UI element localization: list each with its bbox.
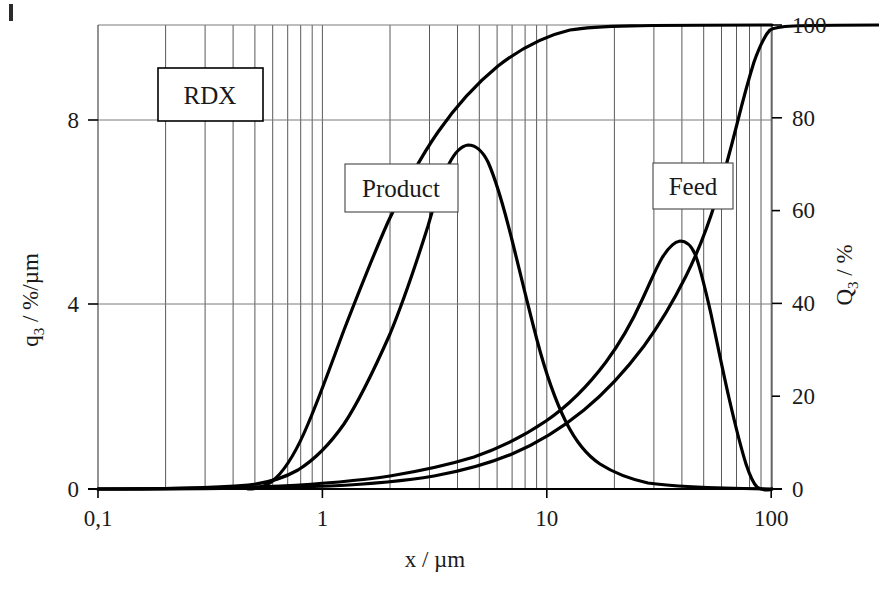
left-axis-title: q3 / %/µm: [18, 253, 47, 347]
left-axis-tick-labels: 0 4 8: [68, 108, 80, 502]
right-tick-60: 60: [792, 198, 815, 223]
left-axis-title-sub: 3: [31, 328, 47, 336]
x-tick-1: 1: [317, 506, 329, 531]
right-axis-tick-labels: 0 20 40 60 80 100: [792, 13, 827, 502]
right-tick-0: 0: [792, 477, 804, 502]
product-label: Product: [362, 175, 440, 202]
curve-feed-density: [98, 241, 772, 490]
right-tick-100: 100: [792, 13, 827, 38]
feed-label: Feed: [669, 173, 718, 200]
right-axis-title-rest: / %: [832, 244, 857, 281]
left-tick-8: 8: [68, 108, 80, 133]
rdx-callout: RDX: [158, 68, 263, 121]
x-axis-title: x / µm: [405, 547, 466, 572]
x-tick-100: 100: [754, 506, 789, 531]
x-axis-tick-labels: 0,1 1 10 100: [84, 506, 789, 531]
x-tick-10: 10: [535, 506, 558, 531]
right-tick-80: 80: [792, 106, 815, 131]
left-tick-0: 0: [68, 477, 80, 502]
right-axis-title: Q3 / %: [832, 244, 861, 305]
feed-callout: Feed: [653, 163, 733, 209]
x-tick-0p1: 0,1: [84, 506, 113, 531]
left-axis-title-main: q: [18, 335, 43, 347]
right-axis-title-main: Q: [832, 289, 857, 306]
svg-text:Q3 / %: Q3 / %: [832, 244, 861, 305]
right-tick-40: 40: [792, 291, 815, 316]
left-tick-4: 4: [68, 292, 80, 317]
x-axis-ticks: [98, 489, 771, 498]
left-axis-title-rest: / %/µm: [18, 253, 43, 328]
svg-text:q3 / %/µm: q3 / %/µm: [18, 253, 47, 347]
left-axis-ticks: [88, 120, 98, 489]
rdx-label: RDX: [184, 82, 237, 109]
product-callout: Product: [345, 164, 458, 212]
page-corner-mark: [9, 4, 13, 21]
chart-canvas: RDX Product Feed 0 4 8 0 20 40 60 80 100: [0, 0, 879, 592]
right-axis-title-sub: 3: [845, 281, 861, 289]
right-tick-20: 20: [792, 384, 815, 409]
chart-figure: RDX Product Feed 0 4 8 0 20 40 60 80 100: [0, 0, 879, 592]
